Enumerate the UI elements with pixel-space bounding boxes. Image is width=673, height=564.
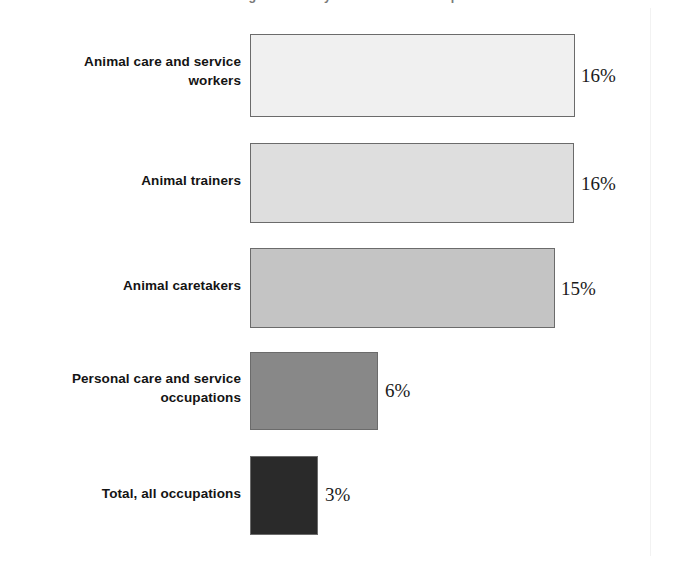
category-label-line: Animal care and service <box>8 52 241 71</box>
bar[interactable] <box>250 248 555 328</box>
bar[interactable] <box>250 34 575 117</box>
category-label-line: Animal caretakers <box>8 276 241 295</box>
bar[interactable] <box>250 143 574 223</box>
category-label: Total, all occupations <box>8 484 241 503</box>
bar-fill <box>251 35 574 116</box>
bar-fill <box>251 249 554 327</box>
category-label: Personal care and service occupations <box>8 369 241 407</box>
category-label: Animal trainers <box>8 171 241 190</box>
bar-fill <box>251 144 573 222</box>
chart-title: Percent of wage and salary workers who w… <box>110 0 560 3</box>
bar-fill <box>251 457 317 534</box>
category-label-line: Total, all occupations <box>8 484 241 503</box>
bar[interactable] <box>250 456 318 535</box>
category-label: Animal caretakers <box>8 276 241 295</box>
bar-value-label: 3% <box>325 484 350 506</box>
bar-value-label: 16% <box>581 65 616 87</box>
category-label-line: Animal trainers <box>8 171 241 190</box>
bar-chart: Percent of wage and salary workers who w… <box>0 0 673 564</box>
bar-value-label: 16% <box>581 173 616 195</box>
category-label-line: occupations <box>8 388 241 407</box>
plot-frame-edge <box>650 8 651 556</box>
bar-value-label: 15% <box>561 278 596 300</box>
bar-value-label: 6% <box>385 380 410 402</box>
category-label: Animal care and service workers <box>8 52 241 90</box>
category-label-line: workers <box>8 71 241 90</box>
bar-fill <box>251 353 377 429</box>
bar[interactable] <box>250 352 378 430</box>
category-label-line: Personal care and service <box>8 369 241 388</box>
